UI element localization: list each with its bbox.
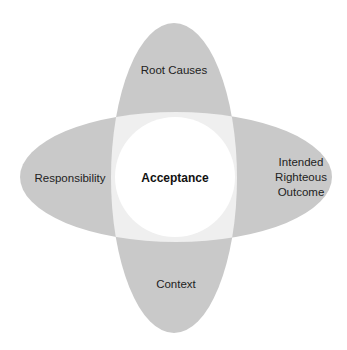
acceptance-diagram: Root Causes Responsibility Acceptance In… [0,0,347,350]
label-responsibility: Responsibility [35,172,106,184]
label-righteous: Righteous [275,171,327,183]
label-context: Context [156,278,196,290]
label-outcome: Outcome [278,186,325,198]
label-intended: Intended [279,156,324,168]
label-acceptance: Acceptance [141,171,209,185]
label-root-causes: Root Causes [141,64,208,76]
